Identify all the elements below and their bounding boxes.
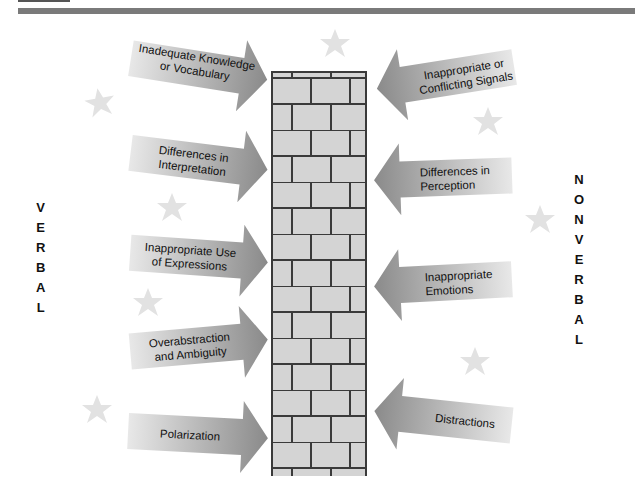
verbal-letter: B [36,258,45,278]
verbal-letter: R [36,238,45,258]
star-icon [157,193,187,221]
brick-wall [272,72,366,476]
nonverbal-letter: E [575,250,584,270]
nonverbal-letter: V [575,230,584,250]
verbal-letter: V [36,198,45,218]
nonverbal-letter: R [574,270,583,290]
star-icon [460,347,490,375]
star-icon [82,395,112,423]
verbal-letter: E [36,218,45,238]
nonverbal-letter: N [574,170,583,190]
barrier-diagram [0,0,640,498]
verbal-letter: L [37,298,45,318]
nonverbal-letter: N [574,210,583,230]
nonverbal-label: N O N V E R B A L [574,170,584,350]
star-icon [525,205,555,233]
nonverbal-letter: O [574,190,584,210]
star-icon [83,86,117,119]
star-icon [473,107,503,135]
nonverbal-barrier-2: Differences in Perception [420,162,511,193]
nonverbal-barrier-3: Inappropriate Emotions [424,266,515,299]
nonverbal-letter: A [574,310,583,330]
verbal-letter: A [36,278,45,298]
star-icon [320,29,350,57]
verbal-label: V E R B A L [36,198,45,318]
star-icon [133,288,163,316]
nonverbal-letter: L [575,330,583,350]
nonverbal-letter: B [574,290,583,310]
